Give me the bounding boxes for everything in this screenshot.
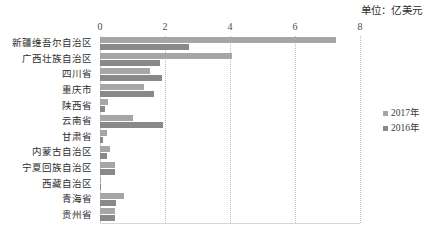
bar-2016年 [100,60,160,66]
y-axis-category-labels: 新疆维吾尔自治区广西壮族自治区四川省重庆市陕西省云南省甘肃省内蒙古自治区宁夏回族… [0,36,96,223]
bar-chart: 单位：亿美元 02468 新疆维吾尔自治区广西壮族自治区四川省重庆市陕西省云南省… [0,0,434,243]
bar-2016年 [100,75,162,81]
x-tick-label: 2 [163,20,168,34]
legend-label: 2017年 [391,108,420,118]
y-category-label: 青海省 [62,194,92,205]
y-category-label: 内蒙古自治区 [32,147,92,158]
bar-row [100,67,360,83]
y-category-label: 新疆维吾尔自治区 [12,38,92,49]
bar-2017年 [100,53,232,59]
y-category-label: 西藏自治区 [42,179,92,190]
legend-swatch-icon [383,126,388,131]
bar-row [100,176,360,192]
bar-2017年 [100,162,115,168]
y-category-label: 广西壮族自治区 [22,54,92,65]
bar-2017年 [100,193,124,199]
bar-2016年 [100,200,116,206]
bar-2017年 [100,68,150,74]
unit-caption: 单位：亿美元 [361,2,422,17]
y-category-label: 贵州省 [62,210,92,221]
y-category-label: 宁夏回族自治区 [22,163,92,174]
bar-row [100,36,360,52]
y-category-label: 甘肃省 [62,132,92,143]
bar-row [100,161,360,177]
legend-item[interactable]: 2016年 [383,123,433,133]
bar-2017年 [100,99,108,105]
x-tick-label: 4 [228,20,233,34]
legend-label: 2016年 [391,123,420,133]
y-category-label: 云南省 [62,116,92,127]
bar-row [100,192,360,208]
bar-row [100,114,360,130]
bar-2016年 [100,215,115,221]
bar-2017年 [100,177,101,183]
bar-2017年 [100,115,133,121]
bar-2017年 [100,37,336,43]
bar-2016年 [100,106,105,112]
bar-2017年 [100,146,110,152]
bar-2016年 [100,137,103,143]
bar-2017年 [100,208,115,214]
chart-legend: 2017年2016年 [383,108,433,138]
x-tick-label: 6 [293,20,298,34]
bar-row [100,52,360,68]
bar-2016年 [100,44,189,50]
bar-row [100,98,360,114]
bar-2016年 [100,122,163,128]
plot-area [100,36,360,223]
bar-row [100,129,360,145]
y-category-label: 陕西省 [62,101,92,112]
gridline [360,36,361,223]
bar-row [100,145,360,161]
bar-2016年 [100,91,154,97]
bar-rows [100,36,360,223]
bar-row [100,83,360,99]
y-category-label: 四川省 [62,69,92,80]
y-category-label: 重庆市 [62,85,92,96]
x-axis-tick-labels: 02468 [100,20,360,34]
bar-2017年 [100,130,107,136]
legend-item[interactable]: 2017年 [383,108,433,118]
legend-swatch-icon [383,111,388,116]
x-tick-label: 8 [358,20,363,34]
bar-2016年 [100,169,115,175]
bar-2016年 [100,153,107,159]
x-axis-baseline [100,223,360,224]
bar-row [100,207,360,223]
bar-2017年 [100,84,144,90]
x-tick-label: 0 [98,20,103,34]
